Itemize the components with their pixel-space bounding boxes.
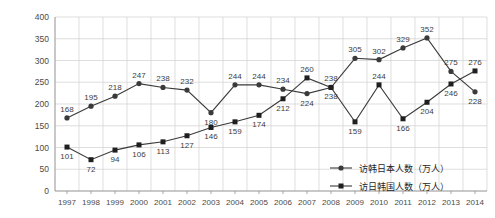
y-axis-tick-label: 200 bbox=[35, 99, 49, 109]
data-point-label: 204 bbox=[420, 107, 434, 116]
data-point-label: 168 bbox=[60, 105, 74, 114]
data-point-label: 276 bbox=[468, 58, 482, 67]
data-point-label: 94 bbox=[111, 155, 120, 164]
y-axis-tick-label: 100 bbox=[35, 143, 49, 153]
data-point-label: 244 bbox=[372, 72, 386, 81]
data-point-marker-circle bbox=[304, 91, 309, 96]
data-point-label: 275 bbox=[444, 58, 458, 67]
data-point-label: 329 bbox=[396, 35, 410, 44]
data-point-label: 106 bbox=[132, 150, 146, 159]
data-point-marker-circle bbox=[208, 110, 213, 115]
data-point-label: 244 bbox=[228, 72, 242, 81]
data-point-marker-circle bbox=[472, 89, 477, 94]
data-point-label: 260 bbox=[300, 65, 314, 74]
x-axis-tick-label: 2012 bbox=[418, 198, 436, 207]
data-point-label: 159 bbox=[228, 127, 242, 136]
data-point-marker-circle bbox=[184, 87, 189, 92]
y-axis-tick-label: 300 bbox=[35, 56, 49, 66]
legend-label-1: 访韩日本人数（万人） bbox=[359, 163, 449, 174]
x-axis-tick-label: 2014 bbox=[466, 198, 484, 207]
legend-marker-circle bbox=[338, 165, 343, 170]
x-axis-tick-label: 2009 bbox=[346, 198, 364, 207]
y-axis-tick-label: 400 bbox=[35, 12, 49, 22]
data-point-marker-square bbox=[305, 75, 310, 80]
data-point-label: 228 bbox=[468, 97, 482, 106]
data-point-marker-circle bbox=[112, 94, 117, 99]
x-axis-tick-label: 2001 bbox=[154, 198, 172, 207]
x-axis-tick-label: 2005 bbox=[250, 198, 268, 207]
y-axis-tick-label: 50 bbox=[40, 164, 50, 174]
legend-marker-square bbox=[339, 184, 344, 189]
data-point-marker-circle bbox=[448, 69, 453, 74]
data-point-label: 195 bbox=[84, 93, 98, 102]
data-point-marker-circle bbox=[280, 87, 285, 92]
data-point-marker-square bbox=[161, 139, 166, 144]
data-point-marker-square bbox=[89, 157, 94, 162]
x-axis-tick-label: 2008 bbox=[322, 198, 340, 207]
legend-label-2: 访日韩国人数（万人） bbox=[359, 181, 449, 192]
data-point-marker-circle bbox=[64, 115, 69, 120]
x-axis-tick-label: 2003 bbox=[202, 198, 220, 207]
x-axis-tick-label: 1997 bbox=[58, 198, 76, 207]
data-point-label: 244 bbox=[252, 72, 266, 81]
x-axis-tick-label: 2011 bbox=[394, 198, 412, 207]
data-point-marker-square bbox=[281, 96, 286, 101]
data-point-label: 238 bbox=[324, 92, 338, 101]
data-point-label: 247 bbox=[132, 71, 146, 80]
data-point-label: 218 bbox=[108, 83, 122, 92]
data-point-label: 72 bbox=[87, 165, 96, 174]
data-point-label: 212 bbox=[276, 104, 290, 113]
x-axis-tick-label: 2007 bbox=[298, 198, 316, 207]
data-point-marker-square bbox=[425, 100, 430, 105]
data-point-marker-circle bbox=[88, 104, 93, 109]
y-axis-tick-label: 350 bbox=[35, 34, 49, 44]
x-axis-tick-label: 2006 bbox=[274, 198, 292, 207]
data-point-marker-square bbox=[401, 116, 406, 121]
y-axis-tick-label: 0 bbox=[44, 186, 49, 196]
x-axis-tick-label: 2004 bbox=[226, 198, 244, 207]
data-point-marker-circle bbox=[256, 82, 261, 87]
data-point-label: 238 bbox=[324, 74, 338, 83]
data-point-marker-circle bbox=[160, 85, 165, 90]
data-point-label: 305 bbox=[348, 45, 362, 54]
data-point-marker-square bbox=[353, 119, 358, 124]
data-point-marker-circle bbox=[352, 56, 357, 61]
data-point-marker-square bbox=[257, 113, 262, 118]
x-axis-tick-label: 2002 bbox=[178, 198, 196, 207]
data-point-marker-square bbox=[329, 85, 334, 90]
data-point-label: 127 bbox=[180, 141, 194, 150]
data-point-label: 101 bbox=[60, 152, 74, 161]
data-point-marker-square bbox=[233, 119, 238, 124]
x-axis-tick-label: 1998 bbox=[82, 198, 100, 207]
line-chart: 0501001502002503003504001997199819992000… bbox=[0, 0, 495, 218]
data-point-label: 234 bbox=[276, 76, 290, 85]
x-axis-tick-label: 2013 bbox=[442, 198, 460, 207]
data-point-marker-square bbox=[113, 148, 118, 153]
data-point-marker-circle bbox=[136, 81, 141, 86]
data-point-label: 174 bbox=[252, 120, 266, 129]
x-axis-tick-label: 1999 bbox=[106, 198, 124, 207]
data-point-marker-square bbox=[65, 145, 70, 150]
data-point-label: 246 bbox=[444, 89, 458, 98]
data-point-marker-square bbox=[377, 82, 382, 87]
data-point-marker-square bbox=[185, 133, 190, 138]
chart-canvas: 0501001502002503003504001997199819992000… bbox=[0, 0, 495, 218]
data-point-marker-square bbox=[209, 125, 214, 130]
data-point-marker-square bbox=[449, 81, 454, 86]
data-point-marker-circle bbox=[232, 82, 237, 87]
x-axis-tick-label: 2000 bbox=[130, 198, 148, 207]
data-point-marker-square bbox=[137, 142, 142, 147]
data-point-marker-circle bbox=[376, 57, 381, 62]
data-point-marker-square bbox=[473, 68, 478, 73]
data-point-label: 302 bbox=[372, 47, 386, 56]
data-point-marker-circle bbox=[424, 35, 429, 40]
x-axis-tick-label: 2010 bbox=[370, 198, 388, 207]
data-point-label: 224 bbox=[300, 99, 314, 108]
y-axis-tick-label: 150 bbox=[35, 121, 49, 131]
data-point-marker-circle bbox=[400, 45, 405, 50]
y-axis-tick-label: 250 bbox=[35, 77, 49, 87]
data-point-label: 352 bbox=[420, 25, 434, 34]
data-point-label: 238 bbox=[156, 74, 170, 83]
data-point-label: 166 bbox=[396, 124, 410, 133]
data-point-label: 113 bbox=[157, 147, 170, 156]
